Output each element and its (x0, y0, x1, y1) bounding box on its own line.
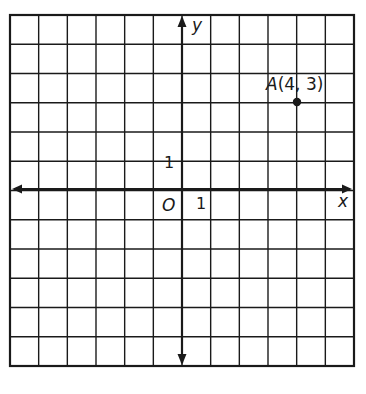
x-axis-label: x (337, 191, 349, 211)
y-axis-down-arrow-icon (178, 354, 187, 365)
x-axis-left-arrow-icon (12, 185, 22, 194)
y-axis-up-arrow-icon (178, 16, 187, 27)
y-tick-label: 1 (164, 153, 174, 172)
coordinate-plane: y x O 1 1 A(4, 3) (0, 0, 366, 394)
point-a-label: A(4, 3) (265, 74, 323, 94)
origin-label: O (162, 195, 175, 215)
x-tick-label: 1 (196, 194, 206, 213)
point-a-marker (293, 98, 301, 106)
y-axis-label: y (191, 15, 203, 35)
